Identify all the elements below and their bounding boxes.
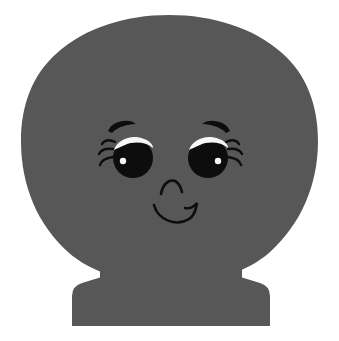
left-eye-glint bbox=[120, 158, 126, 164]
head-shape bbox=[21, 15, 318, 284]
left-eye-group bbox=[113, 137, 153, 178]
right-eye-glint bbox=[215, 158, 221, 164]
character-illustration bbox=[0, 0, 339, 341]
right-eye-group bbox=[188, 137, 228, 178]
illustration-canvas: Cartoon Character Silhouette bbox=[0, 0, 339, 341]
